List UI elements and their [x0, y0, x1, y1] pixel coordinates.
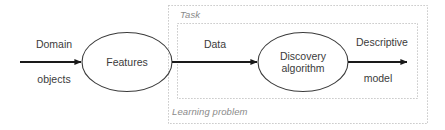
- edge-label-data: Data: [185, 38, 245, 50]
- edge-label-domain: Domain: [26, 38, 82, 50]
- node-label-discovery-line1: Discovery: [258, 50, 348, 62]
- node-label-discovery-algorithm: Discovery algorithm: [258, 50, 348, 74]
- group-label-learning-problem: Learning problem: [172, 106, 248, 117]
- group-label-task: Task: [180, 9, 200, 20]
- edge-label-objects: objects: [26, 73, 82, 85]
- diagram-canvas: Task Learning problem Features Discovery…: [0, 0, 445, 130]
- node-label-features: Features: [82, 56, 172, 68]
- edge-label-descriptive: Descriptive: [348, 36, 416, 48]
- edge-label-model: model: [348, 72, 408, 84]
- node-label-discovery-line2: algorithm: [258, 62, 348, 74]
